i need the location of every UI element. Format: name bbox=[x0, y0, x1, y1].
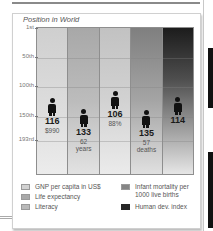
plot-area: 116 $990 133 62 years 106 88% 135 57 dea… bbox=[36, 27, 194, 175]
legend-swatch bbox=[21, 184, 30, 190]
y-tick bbox=[35, 140, 38, 141]
y-tick-label: 193rd bbox=[12, 136, 34, 142]
legend-item-infant-mortality: Infant mortality per1000 live births bbox=[121, 183, 189, 199]
legend-swatch bbox=[21, 204, 30, 210]
page-edge-rule bbox=[203, 0, 204, 231]
y-tick-label: 150th bbox=[12, 112, 34, 118]
legend-label: Infant mortality per bbox=[135, 183, 189, 190]
legend-item-life-expectancy: Life expectancy bbox=[21, 193, 80, 201]
rank-value: 106 bbox=[100, 109, 130, 119]
page-edge-bar bbox=[208, 48, 213, 108]
rank-value: 116 bbox=[37, 116, 67, 126]
legend-swatch bbox=[121, 204, 130, 210]
rank-detail: 88% bbox=[100, 120, 130, 128]
legend-label: Literacy bbox=[35, 203, 58, 211]
column-infant-mortality: 135 57 deaths bbox=[131, 28, 162, 174]
column-literacy: 106 88% bbox=[100, 28, 131, 174]
person-icon bbox=[47, 98, 57, 116]
y-tick-label: 100th bbox=[12, 82, 34, 88]
person-icon bbox=[141, 110, 151, 128]
y-tick bbox=[35, 86, 38, 87]
rank-detail-unit: deaths bbox=[131, 146, 161, 154]
rank-value: 114 bbox=[163, 115, 193, 125]
y-tick bbox=[35, 116, 38, 117]
top-rule bbox=[12, 2, 200, 4]
rank-detail: $990 bbox=[37, 127, 67, 135]
person-icon bbox=[79, 109, 89, 127]
y-tick-label: 1st bbox=[12, 24, 34, 30]
rank-detail-unit: years bbox=[68, 145, 98, 153]
legend-label: Human dev. index bbox=[135, 203, 187, 211]
person-icon bbox=[173, 97, 183, 115]
person-icon bbox=[110, 91, 120, 109]
column-life-expectancy: 133 62 years bbox=[68, 28, 99, 174]
legend-swatch bbox=[121, 184, 130, 190]
legend-item-gnp: GNP per capita in US$ bbox=[21, 183, 101, 191]
y-tick bbox=[35, 57, 38, 58]
column-gnp: 116 $990 bbox=[37, 28, 68, 174]
legend-label-line2: 1000 live births bbox=[135, 191, 179, 198]
legend-item-human-dev-index: Human dev. index bbox=[121, 203, 187, 211]
legend-label: Life expectancy bbox=[35, 193, 80, 201]
page-edge-bar bbox=[208, 152, 213, 228]
rank-value: 133 bbox=[68, 127, 98, 137]
legend-swatch bbox=[21, 194, 30, 200]
column-human-dev-index: 114 bbox=[163, 28, 193, 174]
y-tick bbox=[35, 28, 38, 29]
legend-label: GNP per capita in US$ bbox=[35, 183, 101, 191]
chart-title: Position in World bbox=[23, 15, 79, 24]
y-tick-label: 50th bbox=[12, 53, 34, 59]
rank-value: 135 bbox=[131, 128, 161, 138]
legend-item-literacy: Literacy bbox=[21, 203, 58, 211]
